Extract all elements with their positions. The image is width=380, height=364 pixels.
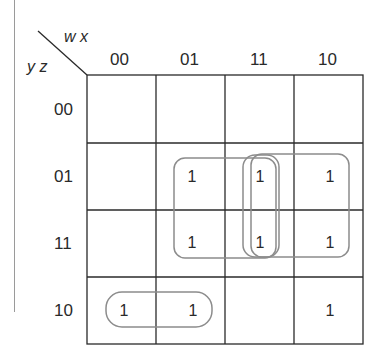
column-header-00: 00 <box>110 50 129 70</box>
column-header-10: 10 <box>318 50 337 70</box>
cell-01-11: 1 <box>250 168 270 186</box>
cell-10-10: 1 <box>320 302 340 320</box>
column-header-11: 11 <box>250 50 268 70</box>
cell-01-01: 1 <box>182 168 202 186</box>
cell-10-00: 1 <box>114 302 134 320</box>
cell-11-11: 1 <box>250 234 270 252</box>
row-header-00: 00 <box>54 100 73 120</box>
row-variables-label: y z <box>27 58 47 76</box>
cell-10-01: 1 <box>183 302 203 320</box>
cell-11-10: 1 <box>320 234 340 252</box>
row-header-01: 01 <box>54 167 73 187</box>
column-header-01: 01 <box>180 50 199 70</box>
row-header-10: 10 <box>54 301 73 321</box>
column-variables-label: w x <box>64 28 88 46</box>
cell-01-10: 1 <box>320 168 340 186</box>
row-header-11: 11 <box>54 234 72 254</box>
cell-11-01: 1 <box>182 234 202 252</box>
